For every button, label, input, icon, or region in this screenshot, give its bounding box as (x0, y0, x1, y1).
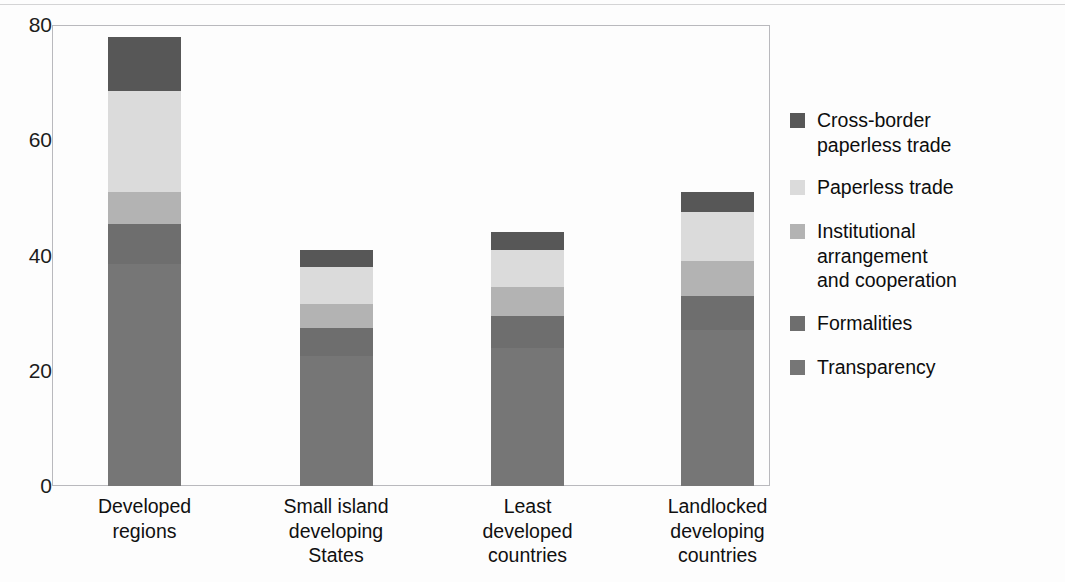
bar-segment (108, 91, 181, 192)
legend-color-swatch (790, 224, 805, 239)
bar-segment (681, 296, 754, 331)
x-axis-category-label: Landlocked developing countries (608, 494, 828, 568)
y-axis: 020406080 (0, 25, 52, 486)
y-axis-tick-label: 40 (6, 245, 52, 266)
bar-segment (108, 224, 181, 264)
bar-segment (491, 232, 564, 249)
bar-segment (491, 250, 564, 287)
legend-item-label: Institutional arrangement and cooperatio… (817, 219, 1052, 293)
legend-item: Formalities (790, 311, 1052, 337)
bar-segment (491, 287, 564, 316)
y-axis-tick-label: 0 (6, 475, 52, 496)
bar-segment (300, 356, 373, 486)
bar-segment (681, 212, 754, 261)
bar-segment (300, 267, 373, 304)
bar-stack (681, 192, 754, 486)
legend-color-swatch (790, 113, 805, 128)
x-axis-category-label: Developed regions (35, 494, 255, 543)
legend-color-swatch (790, 180, 805, 195)
bar-segment (108, 192, 181, 224)
bar-segment (300, 304, 373, 327)
bar-segment (681, 330, 754, 486)
x-axis-category-label: Least developed countries (418, 494, 638, 568)
x-axis-category-label: Small island developing States (226, 494, 446, 568)
y-axis-tick-label: 20 (6, 360, 52, 381)
plot-area (52, 25, 770, 486)
page-rule (0, 4, 1065, 5)
legend-color-swatch (790, 316, 805, 331)
background-bleed-text-left (6, 2, 786, 26)
bar-segment (681, 192, 754, 212)
bar-stack (300, 250, 373, 486)
y-axis-tick-label: 80 (6, 14, 52, 35)
bar-segment (108, 37, 181, 92)
bar-segment (300, 328, 373, 357)
legend-item-label: Paperless trade (817, 175, 1052, 200)
chart-page: 020406080 Cross-border paperless tradePa… (0, 0, 1065, 582)
legend-item: Cross-border paperless trade (790, 108, 1052, 157)
chart-legend: Cross-border paperless tradePaperless tr… (790, 108, 1052, 399)
legend-item: Paperless trade (790, 175, 1052, 201)
bar-segment (300, 250, 373, 267)
bar-segment (491, 316, 564, 348)
y-axis-tick-label: 60 (6, 129, 52, 150)
legend-item: Institutional arrangement and cooperatio… (790, 219, 1052, 293)
bar-segment (108, 264, 181, 486)
bar-stack (108, 37, 181, 486)
legend-item-label: Cross-border paperless trade (817, 108, 1052, 157)
legend-item-label: Transparency (817, 355, 1052, 380)
bar-segment (491, 348, 564, 486)
legend-item-label: Formalities (817, 311, 1052, 336)
bar-stack (491, 232, 564, 486)
legend-item: Transparency (790, 355, 1052, 381)
legend-color-swatch (790, 360, 805, 375)
bar-segment (681, 261, 754, 296)
